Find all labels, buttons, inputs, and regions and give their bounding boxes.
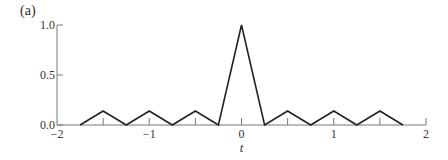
x-axis-title: t xyxy=(240,140,244,155)
tick-marks xyxy=(57,25,426,125)
axes xyxy=(57,25,426,125)
chart-plot-area: 0.00.51.0−2−1012 t xyxy=(0,0,448,160)
signal-line xyxy=(80,25,403,125)
tick-labels: 0.00.51.0−2−1012 xyxy=(40,18,429,141)
x-tick-label: 1 xyxy=(331,127,337,141)
y-tick-label: 1.0 xyxy=(40,18,55,32)
x-tick-label: 2 xyxy=(423,127,429,141)
y-tick-label: 0.5 xyxy=(40,68,55,82)
x-tick-label: 0 xyxy=(239,127,245,141)
x-tick-label: −1 xyxy=(143,127,156,141)
x-tick-label: −2 xyxy=(51,127,64,141)
